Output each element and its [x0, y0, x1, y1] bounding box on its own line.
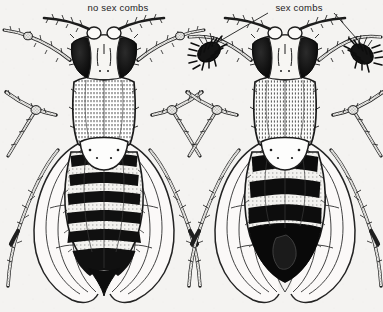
- face: [269, 35, 301, 80]
- label-no-sex-combs-text: no sex combs: [87, 2, 148, 13]
- face: [88, 35, 120, 80]
- figure-canvas: no sex combs sex combs: [0, 0, 383, 312]
- label-sex-combs-text: sex combs: [275, 2, 322, 13]
- label-no-sex-combs: no sex combs: [87, 2, 148, 13]
